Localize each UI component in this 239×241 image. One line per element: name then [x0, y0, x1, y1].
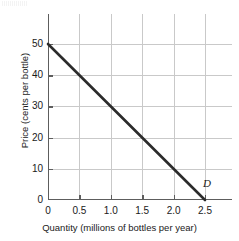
x-axis-title: Quantity (millions of bottles per year): [0, 222, 239, 233]
y-axis-title: Price (cents per bottle): [19, 26, 30, 176]
x-tick-0: [48, 195, 49, 200]
demand-curve-figure: 0 0.5 1.0 1.5 2.0 2.5 0 10 20 30 40 50 D…: [0, 0, 239, 241]
x-tick-0.5: [79, 195, 80, 200]
y-tick-30: [48, 106, 53, 107]
x-tick-2.0: [174, 195, 175, 200]
gridline-horizontal-50: [48, 44, 232, 45]
x-ticklabel-1.0: 1.0: [104, 206, 118, 216]
demand-curve-label: D: [203, 177, 211, 189]
x-tick-1.5: [142, 195, 143, 200]
y-tick-50: [48, 44, 53, 45]
gridline-horizontal-40: [48, 75, 232, 76]
plot-area: [48, 14, 232, 200]
x-ticklabel-2.0: 2.0: [167, 206, 181, 216]
y-tick-10: [48, 169, 53, 170]
x-tick-1.0: [111, 195, 112, 200]
gridline-horizontal-20: [48, 138, 232, 139]
scan-artifact: [2, 1, 28, 6]
x-ticklabel-2.5: 2.5: [198, 206, 212, 216]
x-ticklabel-1.5: 1.5: [135, 206, 149, 216]
gridline-horizontal-30: [48, 106, 232, 107]
x-tick-2.5: [205, 195, 206, 200]
y-tick-20: [48, 138, 53, 139]
y-tick-40: [48, 75, 53, 76]
x-ticklabel-0.5: 0.5: [72, 206, 86, 216]
gridline-horizontal-10: [48, 169, 232, 170]
x-ticklabel-0: 0: [45, 206, 51, 216]
y-ticklabel-0: 0: [26, 195, 43, 205]
